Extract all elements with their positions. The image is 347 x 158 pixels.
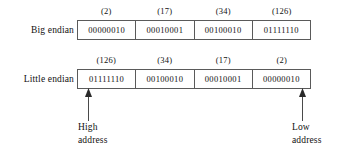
big-endian-caption-1: (17) <box>136 5 195 17</box>
high-address-label-line1: High <box>78 121 108 134</box>
little-endian-row-label: Little endian <box>6 74 74 85</box>
big-endian-byte-2: 00100010 <box>195 21 253 39</box>
high-address-label-line2: address <box>78 134 108 147</box>
little-endian-byte-2: 00010001 <box>195 70 253 88</box>
low-address-label-line1: Low <box>292 121 322 134</box>
arrow-up-icon <box>297 88 308 121</box>
little-endian-caption-0: (126) <box>77 54 136 66</box>
little-endian-caption-row: (126) (34) (17) (2) <box>77 54 311 66</box>
arrow-up-icon <box>83 88 94 121</box>
big-endian-row-label: Big endian <box>6 25 74 36</box>
low-address-pointer <box>297 88 308 121</box>
big-endian-caption-0: (2) <box>77 5 136 17</box>
big-endian-byte-3: 01111110 <box>253 21 310 39</box>
little-endian-byte-1: 00100010 <box>136 70 194 88</box>
big-endian-byte-strip: 00000010 00010001 00100010 01111110 <box>77 20 311 40</box>
little-endian-byte-strip: 01111110 00100010 00010001 00000010 <box>77 69 311 89</box>
big-endian-byte-0: 00000010 <box>78 21 136 39</box>
high-address-pointer <box>83 88 94 121</box>
big-endian-caption-2: (34) <box>194 5 253 17</box>
little-endian-byte-0: 01111110 <box>78 70 136 88</box>
little-endian-byte-3: 00000010 <box>253 70 310 88</box>
high-address-label: High address <box>78 121 108 146</box>
big-endian-caption-row: (2) (17) (34) (126) <box>77 5 311 17</box>
little-endian-caption-3: (2) <box>253 54 312 66</box>
big-endian-caption-3: (126) <box>253 5 312 17</box>
low-address-label-line2: address <box>292 134 322 147</box>
little-endian-caption-2: (17) <box>194 54 253 66</box>
little-endian-caption-1: (34) <box>136 54 195 66</box>
endianness-diagram: (2) (17) (34) (126) Big endian 00000010 … <box>0 0 347 158</box>
low-address-label: Low address <box>292 121 322 146</box>
big-endian-byte-1: 00010001 <box>136 21 194 39</box>
